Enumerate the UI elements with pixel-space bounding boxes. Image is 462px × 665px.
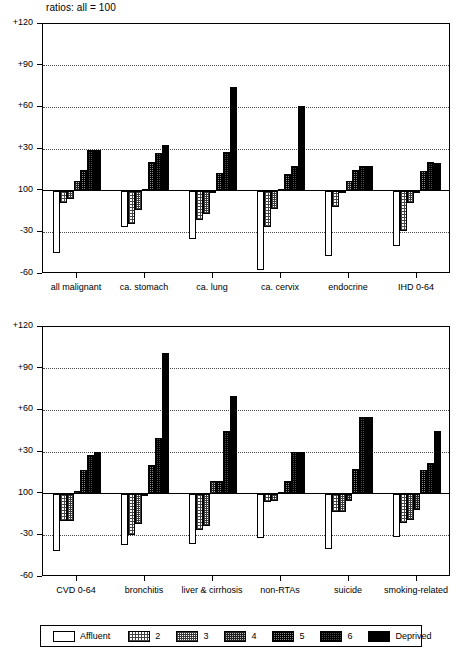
x-axis-tick <box>76 576 77 581</box>
bar <box>60 494 67 522</box>
bar <box>271 494 278 501</box>
bar <box>128 191 135 224</box>
bar <box>155 153 162 191</box>
bar <box>74 181 81 191</box>
legend-swatch <box>272 631 294 642</box>
bar <box>346 494 353 501</box>
bar <box>121 494 128 545</box>
bar <box>162 353 169 493</box>
y-axis-tick-label: 100 <box>0 487 33 497</box>
gridline <box>43 65 449 66</box>
bar <box>339 191 346 194</box>
bar <box>332 494 339 512</box>
legend-item: 4 <box>224 631 256 642</box>
bar <box>121 191 128 227</box>
gridline <box>43 452 449 453</box>
bar <box>271 191 278 209</box>
legend-label: Affluent <box>80 631 110 641</box>
bar <box>366 166 373 191</box>
bar <box>264 191 271 227</box>
bar <box>298 452 305 494</box>
bar <box>264 494 271 502</box>
legend-item: Affluent <box>53 631 110 642</box>
bar <box>216 481 223 494</box>
bar <box>407 494 414 520</box>
plot-area-top <box>42 23 450 273</box>
x-axis-tick <box>416 273 417 278</box>
bar <box>414 494 421 511</box>
bar <box>366 417 373 493</box>
bar <box>257 191 264 270</box>
x-axis-tick <box>212 273 213 278</box>
bar <box>284 174 291 191</box>
y-axis-tick <box>37 326 42 327</box>
bar <box>162 145 169 191</box>
bar <box>352 469 359 494</box>
bar <box>155 438 162 494</box>
bar <box>203 191 210 215</box>
bar <box>67 494 74 522</box>
bar <box>196 191 203 220</box>
legend-item: 2 <box>128 631 160 642</box>
chart-panel-bottom: -60-30100+30+60+90+120CVD 0-64bronchitis… <box>0 320 462 618</box>
gridline <box>43 535 449 536</box>
legend-label: 4 <box>251 631 256 641</box>
chart-panel-top: ratios: all = 100 -60-30100+30+60+90+120… <box>0 0 462 315</box>
gridline <box>43 149 449 150</box>
legend-swatch <box>368 631 390 642</box>
bar <box>135 191 142 210</box>
x-axis-tick <box>144 576 145 581</box>
bar <box>94 452 101 494</box>
bar <box>94 150 101 190</box>
legend-item: 3 <box>176 631 208 642</box>
y-axis-tick <box>37 409 42 410</box>
legend-item: Deprived <box>368 631 431 642</box>
bar <box>148 465 155 494</box>
x-axis-tick <box>76 273 77 278</box>
y-axis-tick <box>37 64 42 65</box>
bar <box>210 481 217 494</box>
bar <box>427 463 434 494</box>
bar <box>148 162 155 191</box>
bar <box>189 494 196 544</box>
bar <box>210 191 217 194</box>
x-axis-tick <box>280 273 281 278</box>
bar <box>142 494 149 497</box>
y-axis-tick-label: +30 <box>0 445 33 455</box>
y-axis-tick-label: +30 <box>0 142 33 152</box>
plot-area-bottom <box>42 326 450 576</box>
bar <box>216 173 223 191</box>
bar <box>346 181 353 191</box>
bar <box>420 171 427 190</box>
chart-legend: Affluent23456Deprived <box>40 625 422 647</box>
bar <box>278 189 285 191</box>
legend-item: 6 <box>320 631 352 642</box>
bar <box>291 452 298 494</box>
legend-label: 2 <box>155 631 160 641</box>
x-axis-category-label: smoking-related <box>370 585 462 595</box>
y-axis-tick <box>37 189 42 190</box>
figure-root: ratios: all = 100 -60-30100+30+60+90+120… <box>0 0 462 665</box>
bar <box>325 191 332 256</box>
y-axis-tick-label: 100 <box>0 184 33 194</box>
bar <box>257 494 264 538</box>
bar <box>427 162 434 191</box>
gridline <box>43 368 449 369</box>
y-axis-tick <box>37 576 42 577</box>
bar <box>434 431 441 494</box>
legend-label: 5 <box>299 631 304 641</box>
y-axis-tick <box>37 231 42 232</box>
y-axis-tick-label: -60 <box>0 267 33 277</box>
bar <box>87 150 94 190</box>
y-axis-tick <box>37 148 42 149</box>
chart-title: ratios: all = 100 <box>46 2 116 13</box>
bar <box>400 191 407 231</box>
legend-item: 5 <box>272 631 304 642</box>
bar <box>135 494 142 525</box>
bar <box>325 494 332 550</box>
bar <box>400 494 407 523</box>
legend-label: 3 <box>203 631 208 641</box>
y-axis-tick-label: +60 <box>0 100 33 110</box>
bar <box>74 491 81 494</box>
bar <box>359 166 366 191</box>
